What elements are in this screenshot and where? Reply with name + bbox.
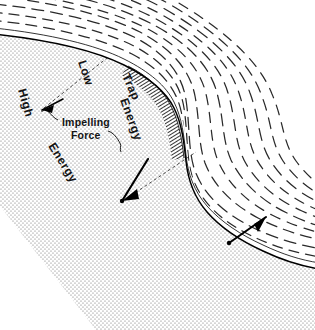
label-impelling: Impelling <box>62 116 110 128</box>
high-energy-fill <box>0 36 315 330</box>
label-force: Force <box>71 129 101 141</box>
energy-trap-figure: Low Trap Energy High Energy Impelling Fo… <box>0 0 315 330</box>
arrow-tail-dot-lower <box>227 241 231 245</box>
diagram-canvas: Low Trap Energy High Energy Impelling Fo… <box>0 0 315 330</box>
arrow-tail-dot-middle <box>120 199 124 203</box>
high-energy-region <box>0 36 315 330</box>
